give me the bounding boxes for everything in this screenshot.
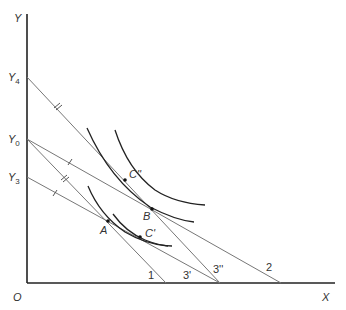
y0-label: Y0 — [8, 133, 20, 148]
y3-label: Y3 — [8, 171, 20, 186]
diagram-canvas: Y X O Y4 Y0 Y3 A B C' C'' 1 2 3' 3'' — [0, 0, 346, 310]
label-c-double-prime: C'' — [129, 168, 142, 180]
origin-label: O — [13, 291, 22, 303]
budget-line-3-prime — [27, 177, 220, 283]
label-line-3-prime: 3' — [183, 269, 191, 281]
y4-label: Y4 — [8, 71, 20, 86]
point-b — [150, 207, 154, 211]
label-line-1: 1 — [148, 269, 154, 281]
y-axis-label: Y — [14, 12, 22, 24]
indifference-curve-a — [88, 186, 168, 246]
label-c-prime: C' — [145, 227, 156, 239]
label-line-3-double-prime: 3'' — [213, 263, 223, 275]
label-a: A — [99, 224, 107, 236]
point-c-double-prime — [123, 178, 127, 182]
label-line-2: 2 — [266, 261, 272, 273]
point-a — [106, 219, 110, 223]
label-b: B — [143, 210, 150, 222]
budget-line-2 — [27, 139, 281, 283]
point-c-prime — [138, 235, 142, 239]
x-axis-label: X — [321, 291, 330, 303]
